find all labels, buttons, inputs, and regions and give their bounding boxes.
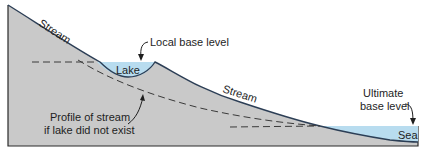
profile-label-line1: Profile of stream (50, 111, 130, 123)
ultimate-label-line1: Ultimate (363, 87, 403, 99)
sea-label: Sea (398, 129, 418, 141)
profile-label-line2: if lake did not exist (44, 124, 135, 136)
local-base-level-arrowhead-icon (138, 54, 144, 61)
ultimate-base-level-arrowhead-icon (410, 118, 416, 125)
lake-label: Lake (116, 64, 140, 76)
ultimate-label-line2: base level (360, 100, 410, 112)
local-base-level-label: Local base level (150, 36, 229, 48)
stream-profile-diagram: Stream Stream Lake Local base level Prof… (0, 0, 430, 154)
